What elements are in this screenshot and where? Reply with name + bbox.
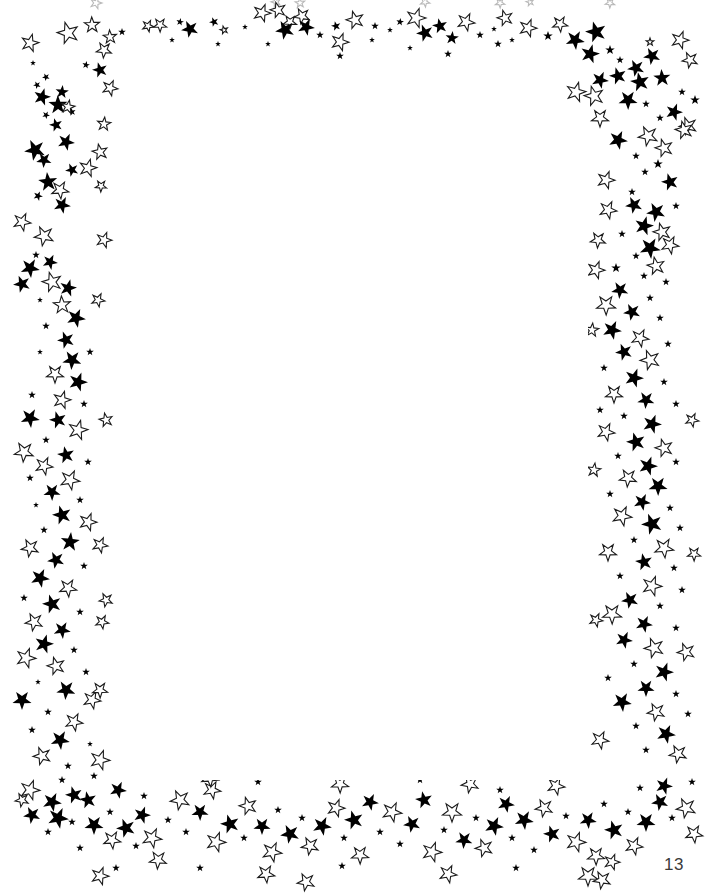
outline-star-icon	[51, 390, 73, 411]
filled-star-icon	[632, 252, 640, 259]
blank-writing-area[interactable]	[120, 140, 588, 780]
outline-star-icon	[24, 613, 44, 632]
outline-star-icon	[95, 230, 114, 249]
outline-star-icon	[587, 462, 602, 477]
filled-star-icon	[628, 69, 653, 95]
filled-star-icon	[512, 864, 520, 871]
filled-star-icon	[208, 15, 221, 28]
filled-star-icon	[606, 490, 614, 497]
filled-star-icon	[443, 30, 461, 48]
outline-star-icon	[652, 535, 678, 560]
filled-star-icon	[596, 406, 604, 413]
outline-star-icon	[90, 679, 111, 700]
outline-star-icon	[151, 15, 169, 33]
filled-star-icon	[41, 792, 63, 813]
filled-star-icon	[672, 624, 680, 631]
outline-star-icon	[237, 794, 260, 817]
outline-star-icon	[349, 843, 372, 866]
outline-star-icon	[95, 116, 113, 134]
filled-star-icon	[12, 692, 31, 710]
filled-star-icon	[86, 348, 94, 355]
filled-star-icon	[215, 41, 221, 46]
filled-star-icon	[636, 233, 664, 261]
filled-star-icon	[639, 513, 664, 538]
filled-star-icon	[654, 777, 675, 797]
outline-star-icon	[282, 14, 298, 31]
outline-star-icon	[495, 9, 514, 28]
filled-star-icon	[670, 564, 678, 571]
outline-star-icon	[597, 198, 619, 220]
filled-star-icon	[189, 800, 212, 823]
filled-star-icon	[80, 400, 88, 407]
filled-star-icon	[176, 17, 185, 25]
filled-star-icon	[28, 726, 36, 733]
outline-star-icon	[11, 210, 33, 232]
outline-star-icon	[599, 545, 616, 561]
filled-star-icon	[274, 806, 282, 813]
filled-star-icon	[630, 536, 638, 543]
outline-star-icon	[646, 703, 666, 722]
filled-star-icon	[311, 816, 333, 837]
outline-star-icon	[292, 5, 313, 26]
filled-star-icon	[611, 263, 621, 272]
filled-star-icon	[35, 679, 41, 684]
filled-star-icon	[664, 340, 672, 347]
filled-star-icon	[132, 842, 140, 849]
outline-star-icon	[588, 229, 609, 250]
outline-star-icon	[473, 839, 494, 859]
filled-star-icon	[182, 828, 190, 835]
outline-star-icon	[637, 126, 659, 147]
outline-star-icon	[260, 839, 285, 863]
filled-star-icon	[472, 814, 480, 821]
outline-star-icon	[645, 254, 668, 277]
filled-star-icon	[67, 107, 77, 117]
filled-star-icon	[653, 159, 663, 168]
outline-star-icon	[141, 18, 156, 33]
outline-star-icon	[437, 862, 459, 884]
filled-star-icon	[613, 628, 635, 650]
outline-star-icon	[14, 793, 29, 808]
filled-star-icon	[641, 44, 665, 68]
filled-star-icon	[633, 550, 656, 573]
filled-star-icon	[512, 807, 538, 832]
filled-star-icon	[656, 602, 664, 609]
filled-star-icon	[52, 196, 72, 215]
filled-star-icon	[530, 846, 538, 853]
outline-star-icon	[294, 0, 307, 10]
filled-star-icon	[589, 68, 611, 90]
filled-star-icon	[632, 722, 640, 729]
filled-star-icon	[607, 66, 629, 87]
filled-star-icon	[616, 86, 642, 112]
filled-star-icon	[496, 795, 516, 814]
outline-star-icon	[60, 99, 76, 114]
outline-star-icon	[89, 0, 103, 9]
outline-star-icon	[14, 645, 38, 669]
filled-star-icon	[360, 793, 380, 812]
filled-star-icon	[633, 214, 656, 236]
filled-star-icon	[562, 812, 570, 819]
filled-star-icon	[32, 251, 40, 258]
filled-star-icon	[605, 45, 615, 54]
filled-star-icon	[28, 565, 53, 589]
filled-star-icon	[600, 317, 625, 341]
filled-star-icon	[622, 303, 642, 322]
filled-star-icon	[23, 139, 47, 162]
filled-star-icon	[35, 170, 61, 195]
filled-star-icon	[440, 826, 448, 833]
outline-star-icon	[534, 799, 554, 818]
filled-star-icon	[646, 294, 654, 301]
filled-star-icon	[55, 331, 76, 351]
filled-star-icon	[626, 59, 646, 78]
filled-star-icon	[20, 594, 28, 601]
outline-star-icon	[91, 141, 111, 161]
filled-star-icon	[616, 56, 624, 63]
outline-star-icon	[96, 43, 112, 59]
filled-star-icon	[295, 15, 317, 37]
outline-star-icon	[677, 117, 698, 137]
filled-star-icon	[218, 813, 242, 837]
filled-star-icon	[33, 502, 39, 507]
filled-star-icon	[112, 864, 120, 871]
filled-star-icon	[118, 28, 126, 35]
outline-star-icon	[46, 367, 63, 383]
outline-star-icon	[588, 611, 605, 628]
